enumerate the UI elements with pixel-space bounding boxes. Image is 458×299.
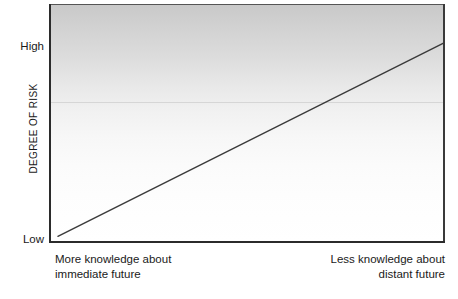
y-axis-title: DEGREE OF RISK bbox=[28, 34, 39, 224]
x-caption-left-line2: immediate future bbox=[55, 267, 245, 282]
y-tick-label-low: Low bbox=[0, 233, 44, 245]
x-caption-left-line1: More knowledge about bbox=[55, 252, 245, 267]
risk-trend-segment bbox=[58, 43, 444, 237]
y-tick-label-high: High bbox=[0, 40, 44, 52]
x-caption-right-line2: distant future bbox=[255, 267, 445, 282]
x-caption-right-line1: Less knowledge about bbox=[255, 252, 445, 267]
risk-vs-knowledge-chart: DEGREE OF RISK High Low More knowledge a… bbox=[0, 0, 458, 299]
trend-line bbox=[50, 5, 444, 241]
x-axis-line bbox=[49, 241, 445, 243]
x-caption-left: More knowledge about immediate future bbox=[55, 252, 245, 282]
x-caption-right: Less knowledge about distant future bbox=[255, 252, 445, 282]
